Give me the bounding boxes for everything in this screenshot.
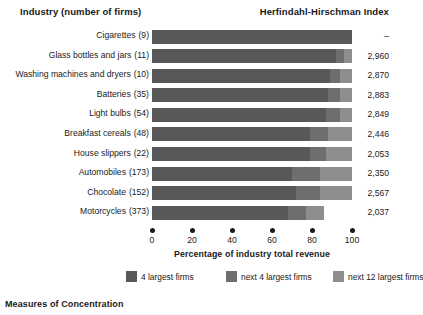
bar-segment-3 xyxy=(328,127,352,141)
row-industry-name: House slippers xyxy=(74,148,131,158)
legend-swatch xyxy=(333,271,344,282)
axis-tick-label: 60 xyxy=(252,235,292,245)
row-label: Breakfast cereals(48) xyxy=(64,128,149,138)
axis-tick-label: 20 xyxy=(172,235,212,245)
row-label: Chocolate(152) xyxy=(87,187,149,197)
chart-row: Batteries(35)2,883 xyxy=(0,87,395,107)
row-industry-name: Batteries xyxy=(97,89,131,99)
legend-swatch xyxy=(126,271,137,282)
chart-row: Automobiles(173)2,350 xyxy=(0,165,395,185)
legend-swatch xyxy=(226,271,237,282)
row-firm-count: (152) xyxy=(129,187,149,197)
stacked-bar xyxy=(152,49,352,63)
stacked-bar xyxy=(152,206,324,220)
axis-tick-label: 0 xyxy=(132,235,172,245)
row-hhi-value: – xyxy=(384,31,389,41)
chart-row: Motorcycles(373)2,037 xyxy=(0,204,395,224)
bar-segment-1 xyxy=(152,127,310,141)
chart-row: Glass bottles and jars(11)2,960 xyxy=(0,48,395,68)
chart-row: Breakfast cereals(48)2,446 xyxy=(0,126,395,146)
row-industry-name: Motorcycles xyxy=(80,206,126,216)
bar-segment-1 xyxy=(152,147,310,161)
stacked-bar xyxy=(152,147,352,161)
figure-caption: Measures of Concentration xyxy=(5,299,124,309)
bar-segment-2 xyxy=(292,167,320,181)
row-label: Automobiles(173) xyxy=(79,167,149,177)
bar-segment-1 xyxy=(152,88,328,102)
row-firm-count: (48) xyxy=(134,128,149,138)
row-firm-count: (11) xyxy=(134,50,149,60)
hhi-column-header: Herfindahl-Hirschman Index xyxy=(260,6,389,17)
bar-segment-3 xyxy=(340,88,352,102)
row-hhi-value: 2,883 xyxy=(367,90,389,100)
row-industry-name: Glass bottles and jars xyxy=(49,50,132,60)
legend-item: 4 largest firms xyxy=(126,271,194,282)
chart-row: Light bulbs(54)2,849 xyxy=(0,106,395,126)
row-label: Light bulbs(54) xyxy=(89,108,149,118)
bar-segment-3 xyxy=(340,69,352,83)
chart-legend: 4 largest firmsnext 4 largest firmsnext … xyxy=(126,271,388,287)
bar-segment-1 xyxy=(152,49,336,63)
row-industry-name: Cigarettes xyxy=(96,30,135,40)
column-headers: Industry (number of firms) Herfindahl-Hi… xyxy=(0,6,395,24)
row-label: Cigarettes(9) xyxy=(96,30,149,40)
bar-segment-1 xyxy=(152,108,326,122)
row-hhi-value: 2,849 xyxy=(367,109,389,119)
bar-segment-1 xyxy=(152,30,352,44)
row-industry-name: Breakfast cereals xyxy=(64,128,130,138)
bar-segment-3 xyxy=(306,206,324,220)
row-firm-count: (54) xyxy=(134,108,149,118)
row-label: House slippers(22) xyxy=(74,148,149,158)
legend-label: next 12 largest firms xyxy=(348,272,423,282)
row-hhi-value: 2,350 xyxy=(367,168,389,178)
stacked-bar xyxy=(152,108,352,122)
row-industry-name: Automobiles xyxy=(79,167,126,177)
axis-tick-dot xyxy=(310,228,315,233)
row-industry-name: Washing machines and dryers xyxy=(15,69,130,79)
row-firm-count: (373) xyxy=(129,206,149,216)
row-hhi-value: 2,037 xyxy=(367,207,389,217)
bar-segment-3 xyxy=(320,186,352,200)
chart-row: Cigarettes(9)– xyxy=(0,28,395,48)
axis-tick-dot xyxy=(150,228,155,233)
bar-segment-2 xyxy=(288,206,306,220)
row-hhi-value: 2,960 xyxy=(367,51,389,61)
row-firm-count: (35) xyxy=(134,89,149,99)
row-firm-count: (10) xyxy=(134,69,149,79)
bar-segment-2 xyxy=(330,69,340,83)
chart-row: Washing machines and dryers(10)2,870 xyxy=(0,67,395,87)
bar-segment-1 xyxy=(152,186,296,200)
chart-rows: Cigarettes(9)–Glass bottles and jars(11)… xyxy=(0,28,395,224)
row-hhi-value: 2,567 xyxy=(367,188,389,198)
axis-tick-dot xyxy=(190,228,195,233)
row-industry-name: Chocolate xyxy=(87,187,126,197)
bar-segment-3 xyxy=(340,108,352,122)
legend-item: next 12 largest firms xyxy=(333,271,423,282)
bar-segment-2 xyxy=(310,127,328,141)
row-label: Washing machines and dryers(10) xyxy=(15,69,149,79)
row-firm-count: (173) xyxy=(129,167,149,177)
row-hhi-value: 2,446 xyxy=(367,129,389,139)
row-label: Glass bottles and jars(11) xyxy=(49,50,149,60)
axis-tick-dot xyxy=(350,228,355,233)
chart-row: House slippers(22)2,053 xyxy=(0,146,395,166)
row-hhi-value: 2,870 xyxy=(367,70,389,80)
row-label: Motorcycles(373) xyxy=(80,206,149,216)
bar-segment-2 xyxy=(328,88,340,102)
axis-tick-label: 40 xyxy=(212,235,252,245)
axis-tick-label: 100 xyxy=(332,235,372,245)
bar-segment-1 xyxy=(152,167,292,181)
bar-segment-2 xyxy=(296,186,320,200)
industry-column-header: Industry (number of firms) xyxy=(20,6,141,17)
bar-segment-3 xyxy=(344,49,352,63)
bar-segment-2 xyxy=(326,108,340,122)
x-axis-title: Percentage of industry total revenue xyxy=(152,249,352,259)
row-firm-count: (22) xyxy=(134,148,149,158)
bar-segment-1 xyxy=(152,69,330,83)
row-firm-count: (9) xyxy=(138,30,149,40)
stacked-bar xyxy=(152,30,352,44)
row-hhi-value: 2,053 xyxy=(367,149,389,159)
stacked-bar xyxy=(152,167,352,181)
chart-row: Chocolate(152)2,567 xyxy=(0,185,395,205)
